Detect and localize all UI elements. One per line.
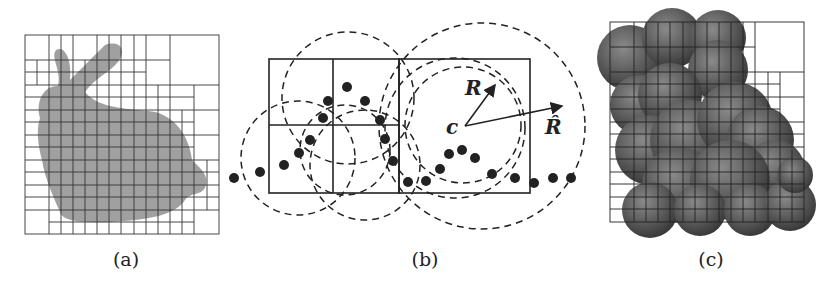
caption-b: (b) [395,248,455,270]
caption-a: (a) [96,248,156,270]
bounding-spheres [241,23,585,229]
caption-c: (c) [681,248,741,270]
label-radius-rhat: R̂ [545,115,562,139]
bunny-shape [38,44,207,223]
label-radius-r: R [465,76,482,100]
panel-c: (c) [590,0,839,293]
panel-a: (a) [0,0,230,293]
panel-b: c R R̂ (b) [220,0,590,293]
sphere-cluster [597,8,816,238]
label-center-c: c [446,115,458,139]
